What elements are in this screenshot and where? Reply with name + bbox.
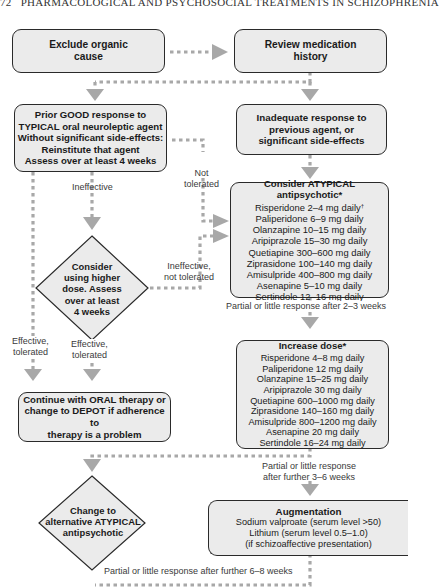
drug-item: Amisulpride 800–1200 mg daily <box>248 417 376 428</box>
arrowhead-continue-left <box>24 369 42 381</box>
augmentation-item: (if schizoaffective presentation) <box>245 539 371 550</box>
node-text: 4 weeks <box>52 306 132 317</box>
edge-prior-not-tolerated <box>172 140 203 152</box>
drug-item: Risperidone 4–8 mg daily <box>261 353 365 364</box>
arrowhead-inadequate <box>301 89 319 101</box>
drug-item: Sertindole 16–24 mg daily <box>259 438 365 449</box>
node-exclude-organic: Exclude organic cause <box>12 29 165 73</box>
node-title: Augmentation <box>276 506 342 517</box>
node-text: Prior GOOD response to <box>35 109 146 120</box>
node-text: Change to <box>38 505 148 516</box>
label-line: Effective, <box>12 336 49 347</box>
node-continue-oral: Continue with ORAL therapy or change to … <box>18 392 171 442</box>
arrowhead-prior <box>86 89 104 101</box>
drug-item: Paliperidone 6–9 mg daily <box>256 213 364 224</box>
label-line: Ineffective, <box>164 261 214 272</box>
edge-increase-split <box>92 448 310 460</box>
node-text: TYPICAL oral neuroleptic agent <box>19 121 163 132</box>
label-effective-tolerated-left: Effective, tolerated <box>12 336 49 357</box>
edge-review-split <box>95 72 310 82</box>
label-line: Not <box>184 168 219 179</box>
drug-item: Quetiapine 300–600 mg daily <box>249 247 371 258</box>
label-line: Partial or little response <box>262 461 356 472</box>
drug-item: Paliperidone 12 mg daily <box>262 364 363 375</box>
node-text: Without significant side-effects: <box>18 132 163 143</box>
node-text: Continue with ORAL therapy or <box>23 394 166 406</box>
augmentation-item: Lithium (serum level 0.5–1.0) <box>249 528 367 539</box>
node-text: previous agent, or <box>269 124 354 136</box>
label-effective-tolerated-mid: Effective, tolerated <box>71 339 108 360</box>
arrowhead-increase <box>301 317 319 329</box>
node-text: dose. Assess <box>52 283 132 294</box>
node-text: Assess over at least 4 weeks <box>25 155 157 166</box>
node-text: therapy is a problem <box>48 429 142 441</box>
drug-item: Olanzapine 10–15 mg daily <box>253 224 367 235</box>
drug-item: Ziprasidone 100–140 mg daily <box>247 258 373 269</box>
node-title: Increase dose* <box>279 341 347 352</box>
label-line: tolerated <box>184 179 219 190</box>
node-text: alternative ATYPICAL <box>38 516 148 527</box>
arrowhead-change-alt <box>83 459 101 472</box>
label-line: not tolerated <box>164 272 214 283</box>
node-text: significant side-effects <box>258 135 364 147</box>
footnote-mark: † <box>361 203 364 209</box>
node-prior-good-response: Prior GOOD response to TYPICAL oral neur… <box>14 104 167 172</box>
label-not-tolerated: Not tolerated <box>184 168 219 189</box>
node-text: cause <box>74 51 103 63</box>
arrowhead-review <box>212 44 228 60</box>
label-partial-6-8-weeks: Partial or little response after further… <box>104 566 293 577</box>
drug-text: Risperidone 2–4 mg daily <box>255 202 361 213</box>
node-text: antipsychotic <box>38 527 148 538</box>
arrowhead-consider-left-2 <box>213 229 229 243</box>
drug-item: Amisulpride 400–800 mg daily <box>247 269 373 280</box>
node-text: Exclude organic <box>49 39 128 51</box>
node-text: change to DEPOT if adherence to <box>19 405 170 428</box>
node-text: Consider <box>52 261 132 272</box>
node-inadequate-response: Inadequate response to previous agent, o… <box>236 104 387 155</box>
drug-item: Aripiprazole 15–30 mg daily <box>252 235 368 246</box>
label-line: tolerated <box>71 350 108 361</box>
label-line: Effective, <box>71 339 108 350</box>
arrowhead-continue-mid <box>83 369 101 381</box>
node-augmentation: Augmentation Sodium valproate (serum lev… <box>208 500 408 556</box>
label-partial-2-3-weeks: Partial or little response after 2–3 wee… <box>226 301 386 312</box>
label-line: after further 3–6 weeks <box>262 472 356 483</box>
node-higher-dose: Consider using higher dose. Assess over … <box>52 261 132 317</box>
arrowhead-consider-left-1 <box>213 214 229 228</box>
label-partial-3-6-weeks: Partial or little response after further… <box>262 461 356 482</box>
label-ineffective: Ineffective <box>72 182 113 193</box>
drug-item: Aripiprazole 30 mg daily <box>263 385 361 396</box>
arrowhead-diamond <box>83 217 101 230</box>
node-review-history: Review medication history <box>234 29 387 73</box>
node-text: Inadequate response to <box>257 112 367 124</box>
arrowhead-augmentation <box>301 484 319 496</box>
drug-item: Ziprasidone 140–160 mg daily <box>251 406 374 417</box>
node-consider-atypical: Consider ATYPICAL antipsychotic* Risperi… <box>230 182 389 298</box>
node-text: using higher <box>52 272 132 283</box>
drug-item: Risperidone 2–4 mg daily† <box>255 202 364 213</box>
drug-item: Asenapine 5–10 mg daily <box>257 280 362 291</box>
node-text: over at least <box>52 295 132 306</box>
node-text: Review medication <box>265 39 357 51</box>
node-text: history <box>294 51 328 63</box>
label-line: tolerated <box>12 347 49 358</box>
node-text: Reinstitute that agent <box>41 144 139 155</box>
drug-item: Olanzapine 15–25 mg daily <box>257 374 368 385</box>
label-ineffective-not-tolerated: Ineffective, not tolerated <box>164 261 214 282</box>
augmentation-item: Sodium valproate (serum level >50) <box>236 517 381 528</box>
node-change-alternative: Change to alternative ATYPICAL antipsych… <box>38 505 148 539</box>
drug-item: Quetiapine 600–1000 mg daily <box>250 396 375 407</box>
node-title: Consider ATYPICAL antipsychotic* <box>231 178 388 200</box>
drug-item: Asenapine 20 mg daily <box>266 427 359 438</box>
node-increase-dose: Increase dose* Risperidone 4–8 mg daily … <box>236 340 389 449</box>
